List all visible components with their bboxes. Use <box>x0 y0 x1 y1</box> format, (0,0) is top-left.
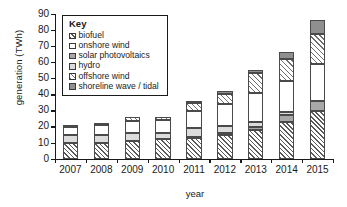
x-tick-label: 2009 <box>121 164 143 175</box>
y-tick-mark <box>51 14 55 15</box>
x-tick-mark <box>55 159 56 163</box>
bar-2014 <box>279 52 294 159</box>
bar-segment <box>279 52 294 59</box>
bar-segment <box>248 122 263 127</box>
bar-segment <box>310 111 325 158</box>
bar-segment <box>279 59 294 81</box>
x-tick-label: 2011 <box>183 164 205 175</box>
bar-segment <box>63 143 78 158</box>
legend-box: Key biofuelonshore windsolar photovoltai… <box>62 15 168 96</box>
bar-segment <box>186 101 201 103</box>
y-axis-title: generation (TWh) <box>13 13 24 123</box>
bar-segment <box>125 117 140 121</box>
bar-segment <box>248 130 263 159</box>
x-tick-label: 2008 <box>90 164 112 175</box>
x-tick-label: 2007 <box>59 164 81 175</box>
legend-swatch-icon <box>69 63 76 70</box>
y-tick-mark <box>51 126 55 127</box>
bar-segment <box>310 20 325 34</box>
bar-segment <box>155 133 170 139</box>
y-tick-label: 80 <box>38 25 49 35</box>
bar-segment <box>186 111 201 128</box>
legend-title: Key <box>69 19 163 30</box>
bar-segment <box>94 123 109 125</box>
bar-segment <box>155 139 170 158</box>
legend-item-label: offshore wind <box>79 72 130 82</box>
bar-segment <box>155 120 170 134</box>
bar-segment <box>248 73 263 92</box>
y-tick-mark <box>51 46 55 47</box>
bar-segment <box>248 127 263 130</box>
legend-item: hydro <box>67 61 163 71</box>
x-axis-title: year <box>50 188 340 199</box>
bar-segment <box>279 115 294 121</box>
x-tick-mark <box>179 159 180 163</box>
x-tick-mark <box>86 159 87 163</box>
bar-segment <box>217 91 232 94</box>
x-tick-mark <box>209 159 210 163</box>
bar-segment <box>248 93 263 122</box>
x-tick-label: 2013 <box>245 164 267 175</box>
y-tick-label: 60 <box>38 57 49 67</box>
bar-2010 <box>155 117 170 159</box>
y-tick-mark <box>51 110 55 111</box>
bar-segment <box>94 135 109 143</box>
bar-segment <box>279 81 294 112</box>
y-tick-label: 90 <box>38 9 49 19</box>
bar-segment <box>217 135 232 158</box>
y-tick-mark <box>51 94 55 95</box>
x-tick-mark <box>333 159 334 163</box>
legend-item: offshore wind <box>67 72 163 82</box>
bar-segment <box>279 112 294 115</box>
y-tick-mark <box>51 62 55 63</box>
bar-segment <box>63 125 78 127</box>
legend-swatch-icon <box>69 33 76 40</box>
bar-segment <box>310 64 325 101</box>
bar-segment <box>155 117 170 120</box>
y-tick-mark <box>51 78 55 79</box>
y-tick-label: 20 <box>38 121 49 131</box>
y-tick-label: 0 <box>43 154 49 164</box>
y-tick-label: 30 <box>38 105 49 115</box>
y-axis-line <box>55 14 56 160</box>
x-tick-mark <box>240 159 241 163</box>
y-tick-label: 50 <box>38 73 49 83</box>
bar-2007 <box>63 126 78 159</box>
x-tick-label: 2014 <box>276 164 298 175</box>
legend-swatch-icon <box>69 83 76 90</box>
y-tick-label: 70 <box>38 41 49 51</box>
legend-swatch-icon <box>69 73 76 80</box>
bar-segment <box>186 138 201 159</box>
bar-segment <box>63 135 78 143</box>
bar-segment <box>94 125 109 134</box>
x-tick-mark <box>148 159 149 163</box>
bar-segment <box>94 143 109 159</box>
x-tick-mark <box>271 159 272 163</box>
y-tick-label: 40 <box>38 89 49 99</box>
y-tick-label: 10 <box>38 138 49 148</box>
legend-swatch-icon <box>69 43 76 50</box>
x-tick-mark <box>302 159 303 163</box>
bar-segment <box>279 122 294 159</box>
bar-segment <box>125 133 140 142</box>
bar-2013 <box>248 70 263 158</box>
x-tick-mark <box>117 159 118 163</box>
bar-2012 <box>217 91 232 159</box>
bar-2015 <box>310 20 325 158</box>
y-tick-mark <box>51 30 55 31</box>
bar-segment <box>63 127 78 135</box>
bar-2011 <box>186 102 201 159</box>
bar-segment <box>125 141 140 158</box>
legend-item-label: shoreline wave / tidal <box>79 82 159 92</box>
legend-item: shoreline wave / tidal <box>67 82 163 92</box>
bar-2008 <box>94 123 109 159</box>
x-tick-label: 2015 <box>306 164 328 175</box>
x-tick-label: 2010 <box>152 164 174 175</box>
bar-segment <box>310 34 325 64</box>
bar-segment <box>186 103 201 111</box>
legend-item-label: hydro <box>79 61 101 71</box>
x-tick-label: 2012 <box>214 164 236 175</box>
legend-items: biofuelonshore windsolar photovoltaicshy… <box>67 31 163 92</box>
bar-segment <box>217 133 232 135</box>
x-axis-line <box>55 159 333 160</box>
